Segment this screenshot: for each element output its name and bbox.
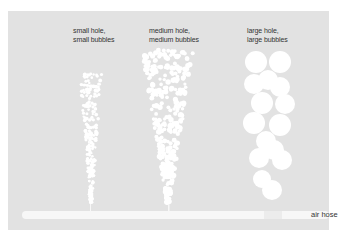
air-hose-label: air hose [311, 210, 338, 219]
medium-bubbles [142, 48, 195, 205]
large-bubbles [243, 51, 295, 200]
air-hose [22, 211, 329, 219]
small-bubbles [80, 73, 103, 205]
hose-gap [264, 211, 282, 219]
small-nozzle [90, 203, 91, 212]
bubbles-illustration [0, 0, 351, 244]
